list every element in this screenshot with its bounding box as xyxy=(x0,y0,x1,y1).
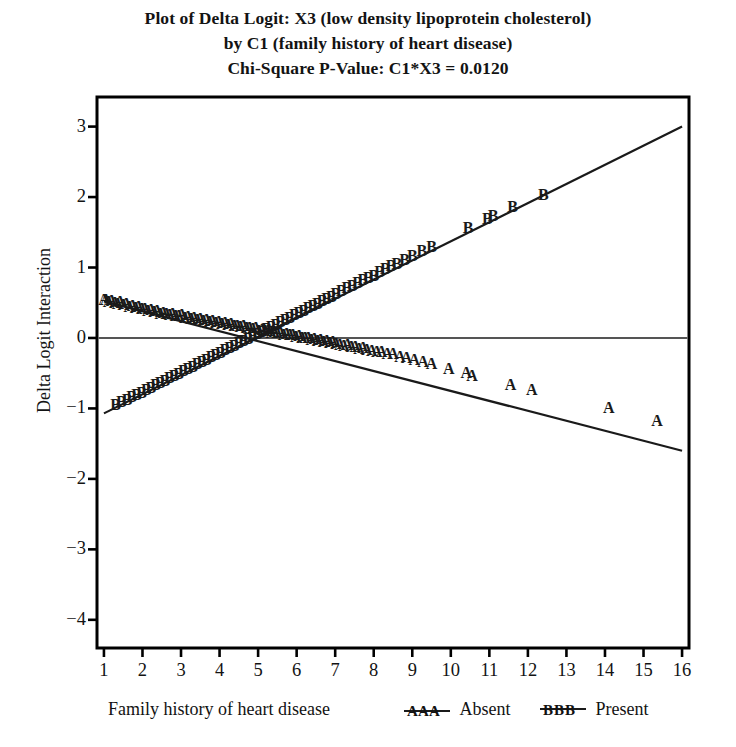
svg-text:B: B xyxy=(543,702,553,718)
legend-entry-absent[interactable]: A A A Absent xyxy=(404,699,511,720)
svg-text:A: A xyxy=(429,703,440,718)
series-markers-present: BBBBBBBBBBBBBBBBBBBBBBBBBBBBBBBBBBBBBBBB… xyxy=(110,186,549,413)
svg-text:B: B xyxy=(463,219,474,236)
svg-text:B: B xyxy=(488,207,499,224)
svg-text:B: B xyxy=(426,238,437,255)
plot-canvas: AAAAAAAAAAAAAAAAAAAAAAAAAAAAAAAAAAAAAAAA… xyxy=(0,0,736,747)
legend-title: Family history of heart disease xyxy=(108,699,330,720)
svg-text:A: A xyxy=(426,355,438,372)
svg-text:A: A xyxy=(651,412,663,429)
svg-text:A: A xyxy=(505,376,517,393)
svg-text:A: A xyxy=(526,381,538,398)
svg-text:B: B xyxy=(554,702,564,718)
legend-sample-present: B B B xyxy=(540,700,586,718)
svg-text:A: A xyxy=(443,360,455,377)
svg-text:B: B xyxy=(538,186,549,203)
svg-text:B: B xyxy=(565,702,575,718)
legend-label-absent: Absent xyxy=(460,699,511,720)
svg-text:A: A xyxy=(603,399,615,416)
legend-sample-absent: A A A xyxy=(404,700,450,718)
svg-text:A: A xyxy=(407,703,418,718)
legend: Family history of heart disease A A A Ab… xyxy=(0,697,736,727)
delta-logit-plot: Plot of Delta Logit: X3 (low density lip… xyxy=(0,0,736,747)
svg-text:A: A xyxy=(466,367,478,384)
svg-text:B: B xyxy=(507,198,518,215)
svg-text:A: A xyxy=(418,703,429,718)
legend-label-present: Present xyxy=(596,699,649,720)
legend-entry-present[interactable]: B B B Present xyxy=(540,699,649,720)
